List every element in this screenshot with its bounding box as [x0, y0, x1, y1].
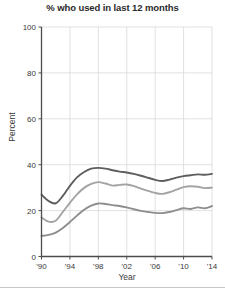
y-tick-labels-group: 020406080100	[23, 23, 37, 262]
x-tick-label: '90	[36, 262, 47, 271]
x-tick-label: '10	[178, 262, 189, 271]
chart-container: % who used in last 12 months 02040608010…	[0, 0, 225, 289]
y-axis-label: Percent	[7, 97, 17, 157]
x-tick-label: '98	[93, 262, 104, 271]
plot-area-wrapper: 020406080100 '90'94'98'02'06'10'14 Perce…	[0, 0, 225, 289]
x-axis-label: Year	[41, 272, 213, 282]
x-tick-labels-group: '90'94'98'02'06'10'14	[36, 262, 217, 271]
x-tick-label: '14	[207, 262, 218, 271]
bottom-divider	[0, 287, 225, 288]
x-tick-label: '94	[65, 262, 76, 271]
y-tick-label: 80	[27, 69, 36, 78]
line-chart-svg: 020406080100 '90'94'98'02'06'10'14	[0, 0, 225, 289]
y-tick-label: 20	[27, 207, 36, 216]
y-tick-label: 60	[27, 115, 36, 124]
x-tick-label: '02	[122, 262, 133, 271]
y-tick-label: 0	[32, 253, 37, 262]
y-tick-label: 100	[23, 23, 37, 32]
gridlines-group	[42, 27, 213, 257]
x-tick-label: '06	[150, 262, 161, 271]
y-tick-label: 40	[27, 161, 36, 170]
